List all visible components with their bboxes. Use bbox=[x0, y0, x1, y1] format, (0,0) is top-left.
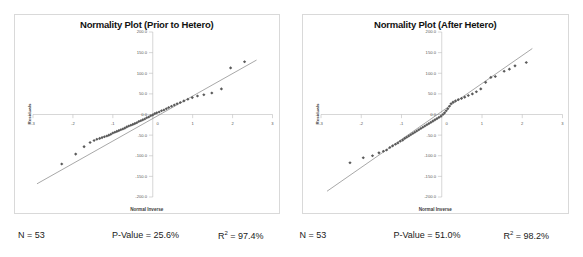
data-point bbox=[92, 139, 95, 142]
data-point bbox=[88, 141, 91, 144]
x-tick-label: 1 bbox=[192, 122, 195, 127]
data-point bbox=[502, 70, 505, 73]
x-tick-label: 1 bbox=[480, 122, 483, 127]
stats-prior: N = 53 P-Value = 25.6% R2 = 97.4% bbox=[0, 220, 292, 257]
x-tick-label: -2 bbox=[359, 122, 363, 127]
x-tick-label: 3 bbox=[271, 122, 274, 127]
charts-row: Normality Plot (Prior to Hetero) Residua… bbox=[0, 0, 583, 220]
data-point bbox=[95, 138, 98, 141]
y-tick-label: 200.0 bbox=[425, 30, 436, 35]
y-tick-label: -150.0 bbox=[424, 174, 437, 179]
sample-size-prior: N = 53 bbox=[18, 230, 45, 240]
data-point bbox=[74, 153, 77, 156]
y-tick-label: 50.0 bbox=[139, 91, 148, 96]
data-point bbox=[348, 161, 351, 164]
data-point bbox=[191, 96, 194, 99]
y-tick-label: -100.0 bbox=[424, 153, 437, 158]
x-tick-label: -3 bbox=[319, 122, 323, 127]
data-point bbox=[202, 93, 205, 96]
data-point bbox=[243, 60, 246, 63]
plot-area-prior: -3-2-10123200.0150.0100.050.00.0-50.0-10… bbox=[33, 32, 273, 197]
data-point bbox=[474, 90, 477, 93]
data-point bbox=[175, 102, 178, 105]
data-point bbox=[196, 94, 199, 97]
y-tick-label: 150.0 bbox=[137, 50, 148, 55]
statistics-row: N = 53 P-Value = 25.6% R2 = 97.4% N = 53… bbox=[0, 220, 583, 257]
x-tick-label: -1 bbox=[399, 122, 403, 127]
data-point bbox=[513, 64, 516, 67]
data-point bbox=[466, 94, 469, 97]
chart-frame-prior: Normality Plot (Prior to Hetero) Residua… bbox=[14, 14, 280, 214]
y-tick-label: -200.0 bbox=[135, 195, 147, 200]
y-tick-label: 50.0 bbox=[427, 91, 436, 96]
y-tick-label: -50.0 bbox=[138, 133, 148, 138]
y-tick-label: 0.0 bbox=[430, 112, 437, 117]
data-point bbox=[361, 156, 364, 159]
x-tick-label: 0 bbox=[156, 122, 159, 127]
x-axis-title-prior: Normal Inverse bbox=[15, 207, 279, 212]
y-tick-label: 200.0 bbox=[137, 30, 148, 35]
scatter-plot-after: -3-2-10123200.0150.0100.050.00.0-50.0-10… bbox=[321, 32, 563, 197]
x-tick-label: 2 bbox=[231, 122, 234, 127]
data-point bbox=[524, 61, 527, 64]
y-tick-label: -100.0 bbox=[135, 153, 147, 158]
r-squared-after: R2 = 98.2% bbox=[504, 230, 550, 241]
x-tick-label: -2 bbox=[71, 122, 75, 127]
x-tick-label: 3 bbox=[561, 122, 564, 127]
data-point bbox=[220, 87, 223, 90]
panel-prior-to-hetero: Normality Plot (Prior to Hetero) Residua… bbox=[0, 0, 292, 220]
normality-plots-figure: Normality Plot (Prior to Hetero) Residua… bbox=[0, 0, 583, 257]
x-axis-title-after: Normal Inverse bbox=[303, 207, 569, 212]
r-squared-after-value: = 98.2% bbox=[513, 231, 549, 241]
y-tick-label: 100.0 bbox=[425, 71, 436, 76]
data-point bbox=[493, 75, 496, 78]
r-squared-prior-value: = 97.4% bbox=[228, 231, 264, 241]
y-tick-label: 100.0 bbox=[137, 71, 148, 76]
data-point bbox=[470, 92, 473, 95]
y-tick-label: 150.0 bbox=[425, 50, 436, 55]
x-tick-label: 2 bbox=[521, 122, 524, 127]
data-point bbox=[210, 91, 213, 94]
data-point bbox=[229, 66, 232, 69]
plot-area-after: -3-2-10123200.0150.0100.050.00.0-50.0-10… bbox=[321, 32, 563, 197]
data-point bbox=[483, 81, 486, 84]
data-point bbox=[370, 154, 373, 157]
r-squared-prior: R2 = 97.4% bbox=[218, 230, 264, 241]
y-tick-label: -150.0 bbox=[135, 174, 147, 179]
panel-after-hetero: Normality Plot (After Hetero) Residuals … bbox=[292, 0, 583, 220]
x-tick-label: -1 bbox=[111, 122, 115, 127]
data-point bbox=[381, 150, 384, 153]
y-tick-label: -200.0 bbox=[424, 195, 437, 200]
scatter-plot-prior: -3-2-10123200.0150.0100.050.00.0-50.0-10… bbox=[33, 32, 273, 197]
sample-size-after: N = 53 bbox=[300, 230, 327, 240]
y-tick-label: 0.0 bbox=[141, 112, 147, 117]
y-tick-label: -50.0 bbox=[426, 133, 436, 138]
p-value-after: P-Value = 51.0% bbox=[394, 230, 461, 240]
data-point bbox=[507, 68, 510, 71]
data-point bbox=[82, 145, 85, 148]
regression-line bbox=[327, 49, 532, 192]
data-point bbox=[60, 162, 63, 165]
chart-frame-after: Normality Plot (After Hetero) Residuals … bbox=[302, 14, 570, 214]
chart-title-after: Normality Plot (After Hetero) bbox=[303, 19, 569, 30]
regression-line bbox=[37, 60, 257, 184]
x-tick-label: 0 bbox=[445, 122, 448, 127]
x-tick-label: -3 bbox=[31, 122, 35, 127]
p-value-prior: P-Value = 25.6% bbox=[112, 230, 179, 240]
data-point bbox=[479, 87, 482, 90]
chart-title-prior: Normality Plot (Prior to Hetero) bbox=[15, 19, 279, 30]
stats-after: N = 53 P-Value = 51.0% R2 = 98.2% bbox=[292, 220, 583, 257]
